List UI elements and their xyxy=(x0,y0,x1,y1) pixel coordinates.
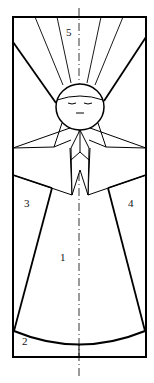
robe-left-side xyxy=(14,188,52,331)
hands xyxy=(71,130,89,195)
region-label-4: 4 xyxy=(128,198,134,209)
right-robe-top xyxy=(108,175,146,188)
angel-drawing xyxy=(0,0,154,383)
head xyxy=(56,84,104,130)
region-label-1: 1 xyxy=(60,252,66,263)
right-wing-edge xyxy=(104,37,146,101)
region-label-5: 5 xyxy=(66,27,72,38)
robe-right-side xyxy=(108,188,145,331)
region-label-3: 3 xyxy=(24,198,30,209)
region-label-2: 2 xyxy=(22,336,28,347)
angel-diagram: 1 2 3 4 5 xyxy=(0,0,154,383)
left-wing-edge xyxy=(13,42,56,103)
robe-hem xyxy=(14,331,145,345)
left-robe-top xyxy=(13,175,52,188)
